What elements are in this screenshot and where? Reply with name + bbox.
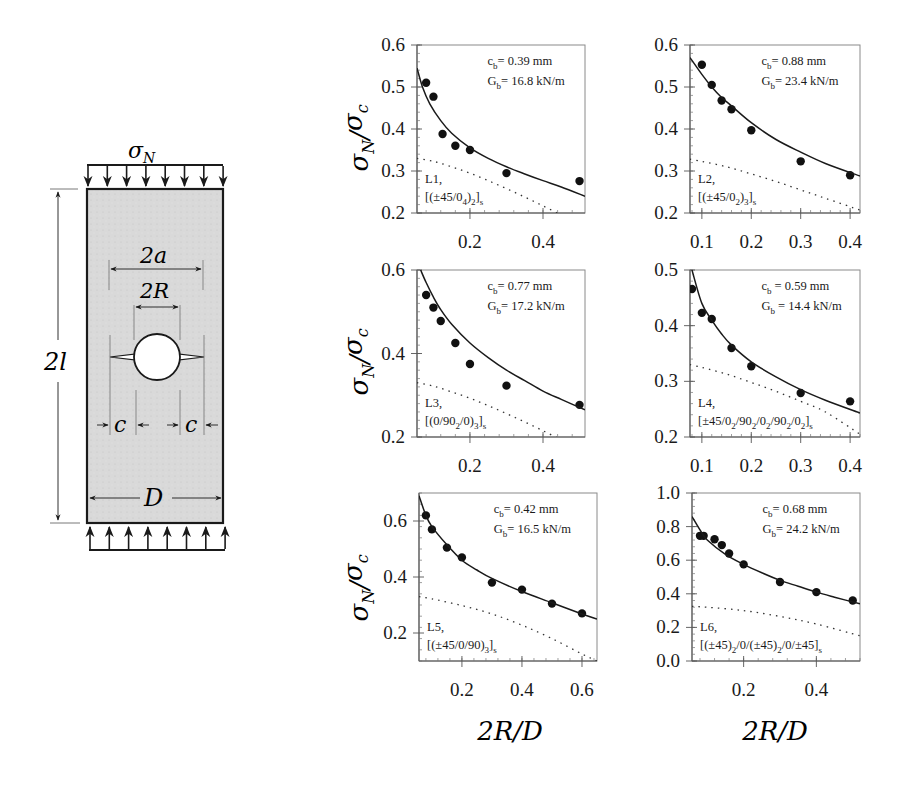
chart-panels: 0.20.30.40.50.60.20.4cb= 0.39 mmGb= 16.8… [381, 34, 862, 700]
x-tick-label: 0.2 [458, 455, 482, 476]
x-tick-label: 0.4 [510, 679, 534, 700]
y-axis-label-row3: σN/σc [338, 554, 378, 621]
x-axis-label-left: 2R/D [476, 716, 543, 746]
x-axis-label-right: 2R/D [741, 716, 808, 746]
y-tick-label: 0.2 [654, 202, 678, 223]
gb-annotation: Gb = 14.4 kN/m [761, 299, 842, 316]
x-tick-label: 0.4 [838, 231, 862, 252]
y-axis-labels: σN/σc σN/σc σN/σc [338, 104, 378, 621]
x-tick-label: 0.2 [739, 231, 763, 252]
x-tick-label: 0.1 [690, 231, 714, 252]
y-axis-label-row2: σN/σc [338, 328, 378, 395]
y-tick-label: 0.6 [383, 510, 407, 531]
figure-canvas: σN 2l 2a [0, 0, 905, 788]
cb-annotation: cb= 0.77 mm [488, 279, 553, 296]
gb-annotation: Gb= 16.5 kN/m [494, 522, 571, 539]
cb-annotation: cb= 0.39 mm [488, 54, 553, 71]
data-point [451, 142, 459, 150]
y-tick-label: 0.6 [656, 549, 680, 570]
y-tick-label: 0.2 [381, 202, 405, 223]
data-point [710, 535, 718, 543]
y-tick-label: 0.4 [654, 118, 678, 139]
laminate-id: L1, [425, 172, 442, 186]
data-point [502, 169, 510, 177]
data-point [437, 317, 445, 325]
specimen-diagram: σN 2l 2a [43, 138, 225, 550]
y-tick-label: 0.0 [656, 650, 680, 671]
length-label: 2l [43, 348, 67, 376]
reference-curve [417, 158, 561, 215]
cb-annotation: cb = 0.59 mm [761, 279, 829, 296]
gb-annotation: Gb= 24.2 kN/m [763, 522, 840, 539]
data-point [688, 285, 696, 293]
gb-annotation: Gb= 17.2 kN/m [488, 299, 565, 316]
bottom-load-arrows [89, 527, 225, 550]
plot-frame [692, 493, 860, 661]
cb-annotation: cb= 0.68 mm [763, 502, 828, 519]
data-point [502, 381, 510, 389]
laminate-id: L2, [698, 172, 715, 186]
data-point [796, 157, 804, 165]
y-tick-label: 1.0 [656, 482, 680, 503]
x-tick-label: 0.2 [739, 455, 763, 476]
width-label: D [143, 484, 163, 512]
plot-frame [419, 493, 597, 661]
y-tick-label: 0.3 [654, 370, 678, 391]
length-dimension: 2l [43, 189, 80, 523]
crack-span-label: 2a [139, 243, 167, 268]
y-tick-label: 0.4 [654, 315, 678, 336]
layup-label: [(±45)2/0/(±45)2/0/±45]s [700, 638, 822, 655]
layup-label: [(±45/04)2]s [425, 190, 484, 207]
y-tick-label: 0.5 [654, 259, 678, 280]
data-point [698, 61, 706, 69]
data-point [422, 291, 430, 299]
x-tick-label: 0.4 [838, 455, 862, 476]
layup-label: [(±45/02)3]s [698, 190, 757, 207]
x-tick-label: 0.1 [690, 455, 714, 476]
gb-annotation: Gb= 23.4 kN/m [761, 74, 838, 91]
chart-panel-l3: 0.20.40.60.20.4cb= 0.77 mmGb= 17.2 kN/mL… [381, 259, 585, 476]
reference-curve [417, 383, 561, 440]
chart-panel-l2: 0.20.30.40.50.60.10.20.30.4cb= 0.88 mmGb… [654, 34, 862, 252]
y-tick-label: 0.6 [654, 34, 678, 55]
y-tick-label: 0.6 [381, 34, 405, 55]
data-point [575, 177, 583, 185]
top-load-arrows [87, 165, 223, 186]
y-tick-label: 0.4 [383, 566, 407, 587]
plot-frame [417, 45, 585, 213]
crack-length-label-right: c [185, 412, 197, 437]
layup-label: [(0/902/0)3]s [425, 414, 487, 431]
laminate-id: L5, [427, 620, 444, 634]
x-tick-label: 0.2 [450, 679, 474, 700]
data-point [438, 130, 446, 138]
reference-curve [692, 606, 860, 635]
y-tick-label: 0.4 [656, 583, 680, 604]
x-tick-label: 0.4 [531, 231, 555, 252]
load-label: σN [128, 138, 156, 166]
layup-label: [±45/02/902/02/902/02]s [698, 414, 813, 431]
y-tick-label: 0.2 [656, 616, 680, 637]
data-point [747, 126, 755, 134]
data-point [429, 92, 437, 100]
data-point [451, 339, 459, 347]
data-point [422, 79, 430, 87]
hole-diameter-label: 2R [139, 279, 169, 303]
y-tick-label: 0.5 [654, 76, 678, 97]
x-tick-label: 0.4 [804, 679, 828, 700]
y-tick-label: 0.6 [381, 259, 405, 280]
laminate-id: L3, [425, 396, 442, 410]
x-tick-label: 0.2 [458, 231, 482, 252]
x-tick-label: 0.3 [789, 231, 813, 252]
data-point [718, 541, 726, 549]
data-point [466, 360, 474, 368]
x-tick-label: 0.4 [531, 455, 555, 476]
cb-annotation: cb= 0.42 mm [494, 502, 559, 519]
y-axis-label-row1: σN/σc [338, 104, 378, 171]
laminate-id: L4, [698, 396, 715, 410]
chart-panel-l1: 0.20.30.40.50.60.20.4cb= 0.39 mmGb= 16.8… [381, 34, 585, 252]
x-tick-label: 0.2 [732, 679, 756, 700]
laminate-id: L6, [700, 620, 717, 634]
data-point [429, 303, 437, 311]
gb-annotation: Gb= 16.8 kN/m [488, 74, 565, 91]
crack-length-label-left: c [114, 412, 126, 437]
